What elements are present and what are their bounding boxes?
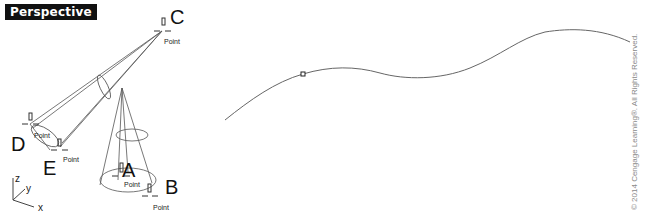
z-axis-label: z [15,173,20,184]
point-letter-c: C [170,6,184,28]
point-label-a: Point [124,181,140,188]
x-axis-line [13,200,34,207]
curve[interactable] [225,30,630,120]
copyright-notice: © 2014 Cengage Learning®. All Rights Res… [630,34,639,210]
y-axis-label: y [26,183,31,194]
point-label-e: Point [63,156,79,163]
point-letter-b: B [165,176,178,198]
point-label-b: Point [153,204,169,211]
point-letter-e: E [43,157,56,179]
point-letter-a: A [122,159,136,181]
point-letter-d: D [11,133,25,155]
point-marker-c[interactable] [154,18,171,31]
y-axis-line [13,189,25,200]
perspective-scene: C D E A B Point Point Point Point Point … [0,0,650,220]
point-label-c: Point [164,38,180,45]
curve-control-point[interactable] [301,72,305,76]
point-marker-d[interactable] [22,113,39,124]
x-axis-label: x [38,202,43,213]
point-label-d: Point [34,132,50,139]
axis-indicator: z y x [13,173,43,213]
